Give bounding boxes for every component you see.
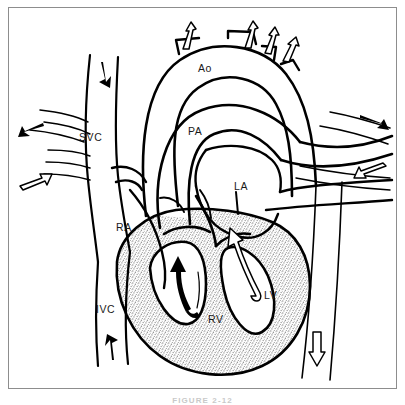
ivc-flow-arrow — [105, 334, 118, 360]
label-ao: Ao — [198, 62, 212, 74]
arch-branch-arrow-1 — [183, 22, 196, 49]
figure-root: Ao SVC PA LA RA LV RV IVC FIGURE 2-12 — [0, 0, 405, 405]
label-svc: SVC — [79, 131, 102, 143]
label-lv: LV — [264, 289, 277, 301]
rv-arrow-tail — [197, 272, 199, 308]
vessel-fills — [144, 46, 314, 218]
label-ivc: IVC — [96, 303, 115, 315]
figure-caption: FIGURE 2-12 — [0, 396, 405, 405]
label-rv: RV — [208, 313, 224, 325]
left-artery-out-arrow — [20, 174, 52, 190]
arch-branch-arrow-3 — [265, 27, 279, 54]
label-ra: RA — [116, 221, 132, 233]
label-la: LA — [234, 180, 248, 192]
label-pa: PA — [188, 125, 202, 137]
arch-branch-arrow-4 — [283, 37, 299, 62]
svc-flow-arrow — [99, 62, 111, 88]
descending-aorta-arrow — [309, 332, 325, 366]
heart-diagram — [0, 0, 405, 405]
rv-outflow-arrow — [170, 256, 200, 318]
left-pulmonary-vessels — [30, 110, 90, 180]
